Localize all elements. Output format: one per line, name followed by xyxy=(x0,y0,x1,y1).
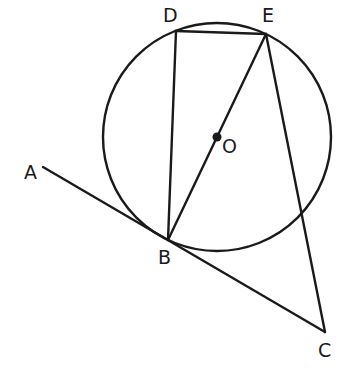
chord-de xyxy=(176,31,266,34)
label-point-e: E xyxy=(262,4,274,26)
center-point-o xyxy=(213,133,222,142)
label-point-d: D xyxy=(163,4,178,26)
label-point-a: A xyxy=(24,161,37,183)
tangent-line-ac xyxy=(43,167,325,332)
label-point-c: C xyxy=(318,339,331,361)
chord-db xyxy=(168,31,176,240)
label-point-o: O xyxy=(222,135,237,157)
geometry-diagram: A B C D E O xyxy=(0,0,350,372)
label-point-b: B xyxy=(158,246,171,268)
